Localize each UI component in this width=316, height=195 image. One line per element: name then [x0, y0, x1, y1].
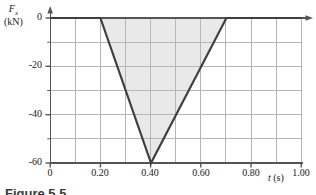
- x-tick-label-100: 1.00: [283, 167, 316, 178]
- y-axis: [47, 6, 53, 163]
- x-tick-label-0: 0: [32, 167, 68, 178]
- y-tick-label-minus60: -60: [8, 156, 42, 167]
- x-tick-label-080: 0.80: [233, 167, 269, 178]
- y-tick-label-minus20: -20: [8, 59, 42, 70]
- figure-caption: Figure 5.5: [5, 186, 66, 195]
- y-tick-label-minus40: -40: [8, 108, 42, 119]
- x-tick-label-060: 0.60: [183, 167, 219, 178]
- x-axis-arrow-icon: [306, 15, 314, 21]
- x-tick-label-020: 0.20: [82, 167, 118, 178]
- x-axis-label: t (s): [268, 173, 284, 184]
- y-axis-arrow-icon: [47, 6, 53, 14]
- x-tick-label-040: 0.40: [132, 167, 168, 178]
- figure-container: Fx (kN) t (s) 0 -20 -40 -60 0 0.20 0.40 …: [0, 0, 316, 195]
- y-tick-label-0: 0: [8, 11, 42, 22]
- force-time-plot: [0, 0, 316, 195]
